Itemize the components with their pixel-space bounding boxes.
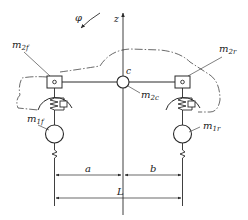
center-mass-leader <box>128 86 140 93</box>
rear-unsprung-mass-label: m1r <box>203 120 221 133</box>
dimension-b-label: b <box>150 163 156 174</box>
z-axis-label: z <box>113 14 119 24</box>
rear-unsprung-mass-circle <box>174 125 192 143</box>
front-sprung-mass-label: m2f <box>12 39 30 52</box>
center-mass-label: m2c <box>141 89 159 102</box>
front-tire-spring <box>52 143 57 206</box>
rear-sprung-leader <box>188 57 222 76</box>
front-sprung-mass-box <box>47 76 62 88</box>
front-unsprung-mass-circle <box>46 125 64 143</box>
pitch-rotation-arrow <box>81 13 100 28</box>
rear-sprung-mass-label: m2r <box>219 43 237 56</box>
front-suspension-spring-damper <box>50 88 67 125</box>
half-car-model-diagram: φ z c m2f m2r m2c m1f m1r a b L <box>0 0 248 220</box>
center-mass-circle <box>117 76 129 88</box>
front-sprung-leader <box>24 52 50 76</box>
rear-sprung-mass-box <box>175 76 190 88</box>
center-label: c <box>126 66 131 76</box>
rear-suspension-spring-damper <box>178 88 195 125</box>
rear-tire-spring <box>180 143 185 206</box>
rotation-label: φ <box>75 12 82 23</box>
dimension-a-label: a <box>85 163 91 174</box>
dimension-L-label: L <box>116 186 124 197</box>
front-unsprung-mass-label: m1f <box>27 113 45 126</box>
